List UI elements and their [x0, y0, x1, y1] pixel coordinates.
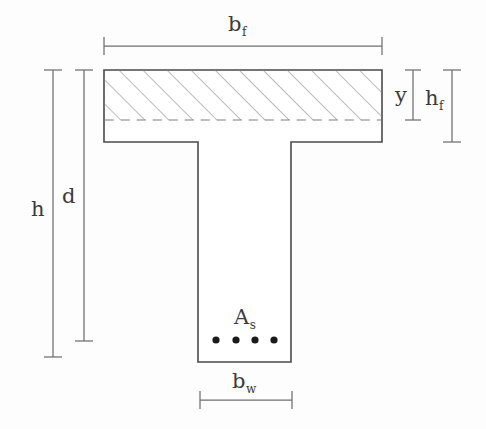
flange-width-dimension: [104, 37, 382, 55]
web-width-subscript: w: [246, 382, 256, 396]
flange-thickness-symbol: h: [425, 86, 439, 110]
compression-depth-symbol: y: [395, 83, 407, 107]
rebar-dot: [232, 336, 239, 343]
flange-thickness-dimension: [443, 70, 461, 142]
effective-depth-dimension: [75, 70, 93, 341]
steel-area-symbol: A: [234, 305, 249, 329]
total-height-symbol: h: [31, 197, 45, 221]
rebar-dot: [251, 336, 258, 343]
flange-thickness-label: hf: [425, 88, 443, 109]
total-height-label: h: [31, 199, 45, 220]
compression-depth-label: y: [395, 85, 407, 106]
steel-area-subscript: s: [250, 318, 256, 332]
flange-thickness-subscript: f: [439, 99, 443, 113]
steel-area-label: As: [234, 307, 255, 328]
flange-width-symbol: b: [228, 12, 241, 36]
diagram-canvas: [0, 0, 486, 429]
flange-width-subscript: f: [242, 25, 246, 39]
web-width-label: bw: [232, 371, 256, 392]
total-height-dimension: [44, 70, 62, 357]
compression-zone-hatching: [104, 70, 382, 120]
effective-depth-label: d: [62, 186, 75, 207]
rebar-dot: [270, 336, 277, 343]
flange-width-label: bf: [228, 14, 246, 35]
rebar-dot: [212, 336, 219, 343]
effective-depth-symbol: d: [62, 184, 75, 208]
t-beam-cross-section-figure: bf bw h d y hf As: [0, 0, 486, 429]
compression-depth-dimension: [405, 70, 421, 120]
web-width-symbol: b: [232, 369, 245, 393]
